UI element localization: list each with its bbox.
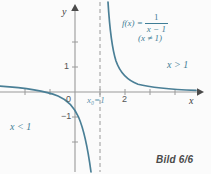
x-axis-label: x [189, 96, 193, 106]
domain-condition-label: (x ≠ 1) [138, 34, 162, 43]
function-formula: f(x) = 1 x − 1 [122, 13, 168, 35]
function-lead-text: f(x) = [122, 19, 143, 28]
region-label-right: x > 1 [167, 60, 188, 70]
x0-text: x₀=1 [87, 95, 105, 105]
y-tick-label-minus1: −1 [61, 112, 71, 121]
fraction-numerator: 1 [151, 13, 162, 22]
y-tick-label-1: 1 [64, 62, 69, 71]
x-tick-label-x0: x₀=1 [87, 96, 105, 105]
function-fraction: 1 x − 1 [145, 13, 168, 35]
function-graph-figure: y x 0 x₀=1 2 1 −1 f(x) = 1 x − 1 (x ≠ 1)… [0, 0, 211, 174]
plot-canvas [0, 0, 211, 174]
x-axis-arrowhead [197, 88, 204, 96]
y-axis-arrowhead [71, 4, 79, 11]
region-label-left: x < 1 [10, 122, 31, 132]
x-tick-label-0: 0 [66, 95, 71, 104]
x-tick-label-2: 2 [122, 95, 127, 104]
y-axis-label: y [62, 7, 66, 17]
figure-caption: Bild 6/6 [156, 154, 193, 165]
